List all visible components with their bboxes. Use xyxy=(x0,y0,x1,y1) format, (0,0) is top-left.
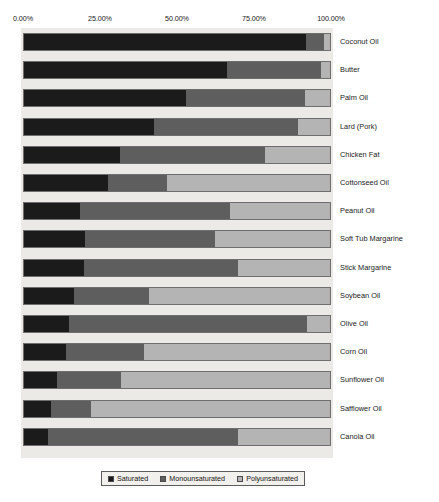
category-label: Soft Tub Margarine xyxy=(340,234,403,243)
category-label: Butter xyxy=(340,65,360,74)
legend-label: Saturated xyxy=(117,474,148,483)
bar-segment-monounsaturated[interactable] xyxy=(186,90,305,106)
legend-item-monounsaturated[interactable]: Monounsaturated xyxy=(160,474,225,483)
category-label: Soybean Oil xyxy=(340,291,380,300)
category-label: Lard (Pork) xyxy=(340,122,377,131)
bar-segment-saturated[interactable] xyxy=(24,119,154,135)
bar-row[interactable] xyxy=(23,174,331,192)
category-label: Safflower Oil xyxy=(340,404,382,413)
bar-segment-saturated[interactable] xyxy=(24,288,74,304)
bar-segment-monounsaturated[interactable] xyxy=(74,288,149,304)
bar-row[interactable] xyxy=(23,315,331,333)
category-label: Cottonseed Oil xyxy=(340,178,389,187)
plot-area xyxy=(21,28,333,458)
bar-segment-polyunsaturated[interactable] xyxy=(321,62,330,78)
bar-segment-saturated[interactable] xyxy=(24,175,108,191)
bar-row[interactable] xyxy=(23,61,331,79)
bar-segment-saturated[interactable] xyxy=(24,344,66,360)
bar-segment-polyunsaturated[interactable] xyxy=(238,429,330,445)
x-axis-tick-75: 75.00% xyxy=(242,14,266,23)
bar-segment-polyunsaturated[interactable] xyxy=(144,344,330,360)
bar-segment-monounsaturated[interactable] xyxy=(80,203,230,219)
legend-swatch-icon xyxy=(237,476,243,482)
category-label: Coconut Oil xyxy=(340,37,379,46)
x-axis-tick-50: 50.00% xyxy=(165,14,189,23)
bar-segment-polyunsaturated[interactable] xyxy=(307,316,330,332)
category-labels: Coconut OilButterPalm OilLard (Pork)Chic… xyxy=(340,28,439,458)
bar-row[interactable] xyxy=(23,146,331,164)
bar-segment-polyunsaturated[interactable] xyxy=(121,372,330,388)
bar-segment-monounsaturated[interactable] xyxy=(154,119,298,135)
bar-segment-polyunsaturated[interactable] xyxy=(149,288,330,304)
bar-segment-saturated[interactable] xyxy=(24,231,85,247)
bar-segment-monounsaturated[interactable] xyxy=(69,316,307,332)
bar-segment-polyunsaturated[interactable] xyxy=(215,231,330,247)
bar-row[interactable] xyxy=(23,400,331,418)
x-axis-tick-100: 100.00% xyxy=(317,14,345,23)
category-label: Palm Oil xyxy=(340,93,368,102)
bar-segment-monounsaturated[interactable] xyxy=(120,147,264,163)
bar-segment-polyunsaturated[interactable] xyxy=(305,90,330,106)
bar-segment-saturated[interactable] xyxy=(24,260,84,276)
category-label: Peanut Oil xyxy=(340,206,375,215)
bar-segment-monounsaturated[interactable] xyxy=(66,344,145,360)
bar-segment-monounsaturated[interactable] xyxy=(227,62,320,78)
bar-segment-saturated[interactable] xyxy=(24,316,69,332)
bar-segment-saturated[interactable] xyxy=(24,34,306,50)
bar-row[interactable] xyxy=(23,259,331,277)
bar-row[interactable] xyxy=(23,118,331,136)
bar-segment-polyunsaturated[interactable] xyxy=(230,203,330,219)
bar-segment-saturated[interactable] xyxy=(24,90,186,106)
bar-segment-polyunsaturated[interactable] xyxy=(324,34,330,50)
category-label: Chicken Fat xyxy=(340,150,379,159)
bar-segment-monounsaturated[interactable] xyxy=(85,231,214,247)
bar-segment-polyunsaturated[interactable] xyxy=(167,175,330,191)
category-label: Stick Margarine xyxy=(340,263,391,272)
bar-segment-saturated[interactable] xyxy=(24,62,227,78)
bar-segment-saturated[interactable] xyxy=(24,147,120,163)
x-axis: 0.00%25.00%50.00%75.00%100.00% xyxy=(0,14,439,26)
x-axis-tick-0: 0.00% xyxy=(13,14,33,23)
bar-row[interactable] xyxy=(23,287,331,305)
legend-item-polyunsaturated[interactable]: Polyunsaturated xyxy=(237,474,298,483)
stacked-bar-chart: 0.00%25.00%50.00%75.00%100.00% Coconut O… xyxy=(0,0,439,502)
category-label: Olive Oil xyxy=(340,319,368,328)
x-axis-tick-25: 25.00% xyxy=(88,14,112,23)
bar-segment-saturated[interactable] xyxy=(24,372,57,388)
bar-row[interactable] xyxy=(23,428,331,446)
bar-segment-polyunsaturated[interactable] xyxy=(238,260,330,276)
bar-segment-monounsaturated[interactable] xyxy=(57,372,122,388)
bar-row[interactable] xyxy=(23,202,331,220)
bar-segment-saturated[interactable] xyxy=(24,429,48,445)
legend-label: Monounsaturated xyxy=(169,474,225,483)
category-label: Corn Oil xyxy=(340,347,367,356)
legend-swatch-icon xyxy=(160,476,166,482)
category-label: Sunflower Oil xyxy=(340,375,384,384)
bar-segment-polyunsaturated[interactable] xyxy=(298,119,330,135)
bar-row[interactable] xyxy=(23,33,331,51)
legend-swatch-icon xyxy=(108,476,114,482)
bar-segment-monounsaturated[interactable] xyxy=(84,260,237,276)
legend-item-saturated[interactable]: Saturated xyxy=(108,474,148,483)
legend-label: Polyunsaturated xyxy=(246,474,298,483)
bar-segment-monounsaturated[interactable] xyxy=(51,401,91,417)
bar-segment-polyunsaturated[interactable] xyxy=(91,401,330,417)
bar-segment-monounsaturated[interactable] xyxy=(306,34,324,50)
category-label: Canola Oil xyxy=(340,432,375,441)
bar-row[interactable] xyxy=(23,343,331,361)
bar-segment-polyunsaturated[interactable] xyxy=(265,147,330,163)
bar-row[interactable] xyxy=(23,89,331,107)
bar-row[interactable] xyxy=(23,371,331,389)
chart-legend: SaturatedMonounsaturatedPolyunsaturated xyxy=(101,471,305,486)
bar-segment-saturated[interactable] xyxy=(24,401,51,417)
bar-rows xyxy=(21,28,333,458)
bar-segment-monounsaturated[interactable] xyxy=(108,175,168,191)
bar-segment-saturated[interactable] xyxy=(24,203,80,219)
bar-segment-monounsaturated[interactable] xyxy=(48,429,238,445)
bar-row[interactable] xyxy=(23,230,331,248)
